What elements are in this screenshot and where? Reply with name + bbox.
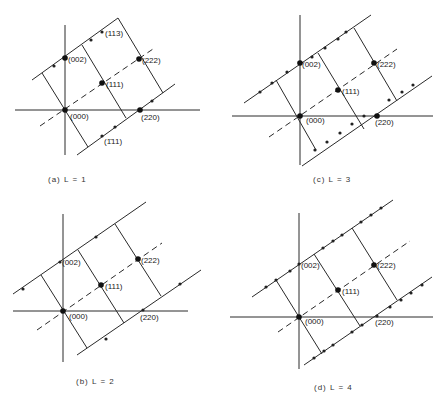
panel-caption: (a) L = 1 bbox=[48, 175, 87, 184]
small-lattice-point bbox=[322, 349, 325, 352]
small-lattice-point bbox=[312, 356, 315, 359]
small-lattice-point bbox=[258, 90, 261, 93]
lattice-point bbox=[60, 308, 66, 314]
small-lattice-point bbox=[274, 278, 277, 281]
small-lattice-point bbox=[340, 233, 343, 236]
point-label: (002) bbox=[301, 261, 320, 270]
small-lattice-point bbox=[350, 122, 353, 125]
small-lattice-point bbox=[313, 148, 316, 151]
panel-d-l4: (000)(002)(222)(111)(220)(d) L = 4 bbox=[230, 200, 433, 392]
small-lattice-point bbox=[325, 140, 328, 143]
point-label: (222) bbox=[377, 261, 396, 270]
small-lattice-point bbox=[310, 55, 313, 58]
panel-caption: (d) L = 4 bbox=[314, 383, 353, 392]
lattice-point bbox=[335, 87, 341, 93]
small-lattice-point bbox=[331, 343, 334, 346]
small-lattice-point bbox=[387, 98, 390, 101]
lattice-point bbox=[335, 287, 341, 293]
lattice-point bbox=[137, 107, 143, 113]
lattice-point bbox=[371, 60, 377, 66]
small-lattice-point bbox=[331, 239, 334, 242]
small-lattice-point bbox=[420, 283, 423, 286]
lattice-line bbox=[13, 202, 146, 294]
small-lattice-point bbox=[323, 46, 326, 49]
small-lattice-point bbox=[321, 246, 324, 249]
point-label: (000) bbox=[70, 112, 89, 121]
small-lattice-point bbox=[362, 114, 365, 117]
point-label: (111) bbox=[106, 80, 124, 89]
small-lattice-point bbox=[104, 337, 107, 340]
point-label: (000) bbox=[69, 312, 88, 321]
lattice-line bbox=[32, 18, 118, 80]
small-lattice-point bbox=[150, 99, 153, 102]
small-lattice-point bbox=[369, 213, 372, 216]
small-lattice-point bbox=[113, 125, 116, 128]
small-lattice-point bbox=[409, 291, 412, 294]
panel-a-l1: (000)(002)(113)(222)(111)(220)(1̄11)(a) … bbox=[15, 18, 200, 184]
small-lattice-point bbox=[359, 220, 362, 223]
small-lattice-point bbox=[52, 64, 55, 67]
lattice-line bbox=[77, 270, 201, 355]
small-lattice-point bbox=[288, 269, 291, 272]
point-label: (000) bbox=[306, 116, 325, 125]
point-label: (222) bbox=[142, 56, 161, 65]
point-label: (220) bbox=[141, 113, 160, 122]
lattice-point bbox=[62, 55, 68, 61]
small-lattice-point bbox=[379, 206, 382, 209]
small-lattice-point bbox=[344, 30, 347, 33]
point-label: (111) bbox=[105, 282, 123, 291]
lattice-point bbox=[62, 107, 68, 113]
lattice-point bbox=[98, 282, 104, 288]
dashed-line bbox=[40, 49, 153, 126]
small-lattice-point bbox=[100, 30, 103, 33]
small-lattice-point bbox=[336, 37, 339, 40]
small-lattice-point bbox=[89, 38, 92, 41]
small-lattice-point bbox=[399, 298, 402, 301]
lattice-point bbox=[297, 113, 303, 119]
small-lattice-point bbox=[285, 70, 288, 73]
lattice-point bbox=[296, 314, 302, 320]
panel-caption: (c) L = 3 bbox=[313, 175, 351, 184]
lattice-point bbox=[371, 262, 377, 268]
point-label: (111) bbox=[342, 287, 360, 296]
lattice-point bbox=[136, 56, 142, 62]
point-label: (222) bbox=[377, 60, 396, 69]
small-lattice-point bbox=[141, 308, 144, 311]
panel-c-l3: (000)(002)(222)(111)(220)(c) L = 3 bbox=[232, 15, 433, 184]
small-lattice-point bbox=[400, 90, 403, 93]
point-label: (220) bbox=[375, 118, 394, 127]
point-label: (220) bbox=[375, 318, 394, 327]
panel-caption: (b) L = 2 bbox=[76, 377, 115, 386]
point-label: (002) bbox=[62, 258, 81, 267]
small-lattice-point bbox=[264, 285, 267, 288]
lattice-line bbox=[77, 84, 175, 155]
small-lattice-point bbox=[411, 83, 414, 86]
point-label: (113) bbox=[105, 29, 123, 38]
small-lattice-point bbox=[94, 235, 97, 238]
lattice-point bbox=[99, 80, 105, 86]
point-label: (1̄11) bbox=[104, 137, 122, 146]
point-label: (002) bbox=[68, 55, 87, 64]
small-lattice-point bbox=[178, 282, 181, 285]
small-lattice-point bbox=[338, 131, 341, 134]
small-lattice-point bbox=[270, 81, 273, 84]
point-label: (220) bbox=[140, 313, 159, 322]
reciprocal-lattice-figure: (000)(002)(113)(222)(111)(220)(1̄11)(a) … bbox=[0, 0, 443, 398]
panel-b-l2: (000)(002)(222)(111)(220)(b) L = 2 bbox=[13, 202, 201, 386]
small-lattice-point bbox=[360, 323, 363, 326]
point-label: (111) bbox=[342, 87, 360, 96]
point-label: (002) bbox=[302, 60, 321, 69]
lattice-line bbox=[276, 80, 316, 150]
small-lattice-point bbox=[21, 287, 24, 290]
small-lattice-point bbox=[350, 330, 353, 333]
point-label: (222) bbox=[141, 256, 160, 265]
point-label: (000) bbox=[305, 317, 324, 326]
small-lattice-point bbox=[388, 305, 391, 308]
lattice-point bbox=[135, 256, 141, 262]
